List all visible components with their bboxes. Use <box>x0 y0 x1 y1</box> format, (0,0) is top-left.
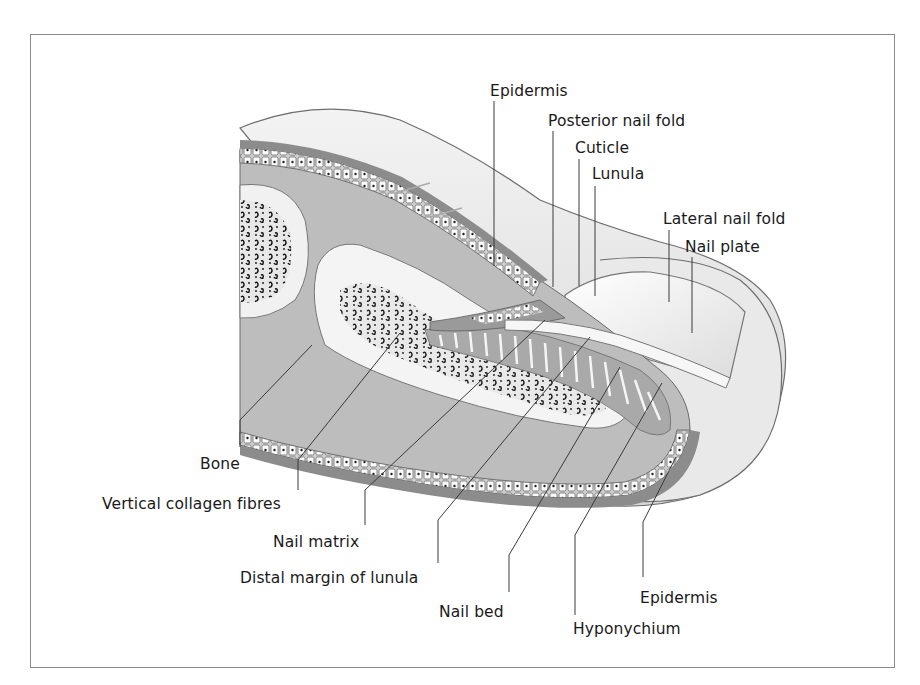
label-epidermis-bottom: Epidermis <box>640 589 718 607</box>
label-lateral-nail-fold: Lateral nail fold <box>663 210 786 228</box>
label-epidermis-top: Epidermis <box>490 82 568 100</box>
label-nail-plate: Nail plate <box>685 238 760 256</box>
label-nail-bed: Nail bed <box>439 603 504 621</box>
label-distal-margin-of-lunula: Distal margin of lunula <box>240 569 418 587</box>
label-bone: Bone <box>200 455 240 473</box>
label-lunula: Lunula <box>592 165 644 183</box>
label-posterior-nail-fold: Posterior nail fold <box>548 112 685 130</box>
label-nail-matrix: Nail matrix <box>273 533 359 551</box>
label-vertical-collagen-fibres: Vertical collagen fibres <box>102 495 281 513</box>
label-cuticle: Cuticle <box>575 139 629 157</box>
label-hyponychium: Hyponychium <box>573 620 681 638</box>
fingertip-cross-section-diagram <box>0 0 920 685</box>
